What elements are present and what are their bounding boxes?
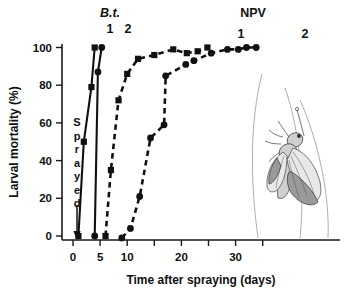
sprayed-letter: a (74, 157, 81, 169)
y-axis-tick-labels: 020406080100 (33, 42, 52, 243)
chart-canvas: 05102030 020406080100 Time after sprayin… (0, 0, 352, 295)
y-axis-ticks (56, 48, 62, 237)
sprayed-letter: e (74, 184, 80, 196)
data-point (118, 234, 125, 241)
series-npv-1 (102, 44, 210, 239)
data-point (184, 50, 190, 56)
x-axis-ticks (73, 240, 263, 246)
moth-illustration (252, 74, 328, 238)
data-point (127, 225, 134, 232)
sprayed-letter: r (75, 143, 80, 155)
data-point (135, 56, 141, 62)
data-point (91, 233, 98, 240)
sprayed-letter: p (74, 130, 81, 142)
x-axis-title: Time after spraying (days) (126, 273, 275, 287)
data-point (98, 44, 105, 51)
data-point (124, 71, 130, 77)
data-point (195, 48, 201, 54)
y-tick-label: 80 (39, 79, 52, 91)
data-point (81, 139, 87, 145)
x-tick-label: 30 (229, 251, 242, 263)
data-point (243, 44, 250, 51)
x-tick-label: 10 (121, 251, 134, 263)
npv-curve-1-number: 1 (238, 27, 245, 41)
data-point (161, 121, 168, 128)
data-point (162, 72, 169, 79)
data-point (115, 97, 121, 103)
data-point (170, 46, 176, 52)
sprayed-letter: y (74, 170, 81, 182)
data-series-layer (75, 44, 259, 241)
x-tick-label: 20 (175, 251, 188, 263)
y-axis-title: Larval mortality (%) (7, 86, 21, 197)
data-point (102, 233, 108, 239)
y-tick-label: 20 (39, 192, 52, 204)
chart-annotations: B.t.12NPV12 (100, 6, 309, 41)
npv-group-label: NPV (240, 6, 266, 20)
data-point (95, 69, 102, 76)
x-tick-label: 0 (70, 251, 76, 263)
data-point (108, 167, 114, 173)
sprayed-letter: S (73, 116, 80, 128)
data-point (208, 50, 215, 57)
y-tick-label: 0 (46, 230, 52, 242)
data-point (136, 193, 143, 200)
series-line (95, 48, 102, 237)
data-point (224, 46, 231, 53)
data-point (88, 84, 94, 90)
data-point (235, 46, 242, 53)
data-point (253, 44, 260, 51)
data-point (147, 135, 154, 142)
series-npv-2 (118, 44, 259, 241)
npv-curve-2-number: 2 (302, 27, 309, 41)
sprayed-label-letters: Sprayed (73, 116, 81, 209)
data-point (182, 61, 189, 68)
series-line (106, 48, 208, 237)
chart-figure: 05102030 020406080100 Time after sprayin… (0, 0, 352, 295)
y-tick-label: 100 (33, 42, 52, 54)
data-point (92, 44, 98, 50)
y-tick-label: 40 (39, 155, 52, 167)
x-axis-tick-labels: 05102030 (70, 251, 242, 263)
y-tick-label: 60 (39, 117, 52, 129)
bt-curve-1-number: 1 (107, 22, 114, 36)
x-tick-label: 5 (97, 251, 104, 263)
bt-group-label: B.t. (100, 6, 120, 20)
data-point (190, 57, 197, 64)
bt-curve-2-number: 2 (125, 22, 132, 36)
data-point (204, 44, 210, 50)
series-line (122, 48, 256, 238)
data-point (151, 52, 157, 58)
